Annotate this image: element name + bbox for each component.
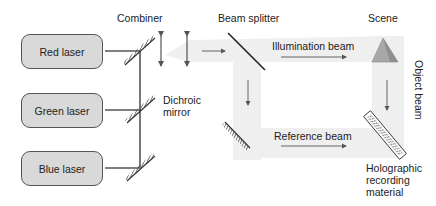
holographic-label-1: Holographic <box>366 162 422 174</box>
holographic-label-3: material <box>366 186 403 198</box>
reference-beam-label: Reference beam <box>274 130 352 142</box>
blue-laser-box: Blue laser <box>21 151 103 186</box>
blue-laser-label: Blue laser <box>39 163 86 175</box>
object-beam-label: Object beam <box>413 60 425 120</box>
scene-label: Scene <box>368 12 398 24</box>
laser-beams <box>105 51 140 168</box>
dichroic-label-1: Dichroic <box>163 94 201 106</box>
beam-splitter-label: Beam splitter <box>218 12 279 24</box>
green-laser-box: Green laser <box>21 93 103 128</box>
red-laser-label: Red laser <box>40 46 85 58</box>
combiner-label: Combiner <box>117 12 163 24</box>
holographic-label-2: recording <box>366 174 410 186</box>
illumination-beam-label: Illumination beam <box>272 40 354 52</box>
dichroic-label-2: mirror <box>163 106 190 118</box>
combiner-mirror-icon <box>123 35 155 65</box>
red-laser-box: Red laser <box>21 34 103 69</box>
green-laser-label: Green laser <box>35 105 90 117</box>
